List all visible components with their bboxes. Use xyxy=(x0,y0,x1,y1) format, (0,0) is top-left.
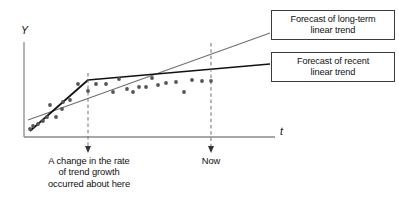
data-point xyxy=(117,77,121,81)
now-arrow-icon xyxy=(208,146,214,153)
change-point-marker-group xyxy=(85,73,91,153)
data-point xyxy=(61,100,65,104)
data-point xyxy=(125,87,129,91)
legend-long-term-line2: linear trend xyxy=(272,25,394,36)
data-point xyxy=(137,85,141,89)
data-point xyxy=(36,122,40,126)
data-point xyxy=(41,119,45,123)
data-point xyxy=(182,90,186,94)
legend-box-recent: Forecast of recent linear trend xyxy=(271,52,395,82)
data-point xyxy=(150,76,154,80)
data-point xyxy=(45,115,49,119)
data-point xyxy=(28,127,32,131)
data-point xyxy=(164,81,168,85)
legend-recent-line2: linear trend xyxy=(272,67,394,78)
change-point-caption-line2: of trend growth xyxy=(28,166,150,177)
data-point xyxy=(31,124,35,128)
data-point xyxy=(111,90,115,94)
y-axis-label: Y xyxy=(21,24,28,36)
data-point xyxy=(60,107,64,111)
scatter-points-group xyxy=(28,76,213,131)
long-term-trend-line xyxy=(28,33,270,120)
data-point xyxy=(94,82,98,86)
data-point xyxy=(54,115,58,119)
data-point xyxy=(131,90,135,94)
data-point xyxy=(68,98,72,102)
legend-box-long-term: Forecast of long-term linear trend xyxy=(271,10,395,40)
data-point xyxy=(190,78,194,82)
data-point xyxy=(200,79,204,83)
t-axis-label: t xyxy=(280,125,283,137)
data-point xyxy=(104,82,108,86)
data-point xyxy=(76,82,80,86)
data-point xyxy=(156,83,160,87)
change-point-caption-line3: occurred about here xyxy=(28,178,150,189)
now-caption-label: Now xyxy=(184,155,238,166)
change-point-caption: A change in the rate of trend growth occ… xyxy=(28,155,150,189)
figure-container: Y t Forecast of long-term linear trend F… xyxy=(0,0,399,202)
change-point-arrow-icon xyxy=(85,146,91,153)
axes-group xyxy=(24,42,275,137)
change-point-caption-line1: A change in the rate xyxy=(28,155,150,166)
data-point xyxy=(144,85,148,89)
legend-recent-line1: Forecast of recent xyxy=(272,56,394,67)
data-point xyxy=(174,80,178,84)
now-caption: Now xyxy=(184,155,238,166)
legend-long-term-line1: Forecast of long-term xyxy=(272,14,394,25)
data-point xyxy=(48,103,52,107)
recent-trend-line xyxy=(30,64,270,131)
